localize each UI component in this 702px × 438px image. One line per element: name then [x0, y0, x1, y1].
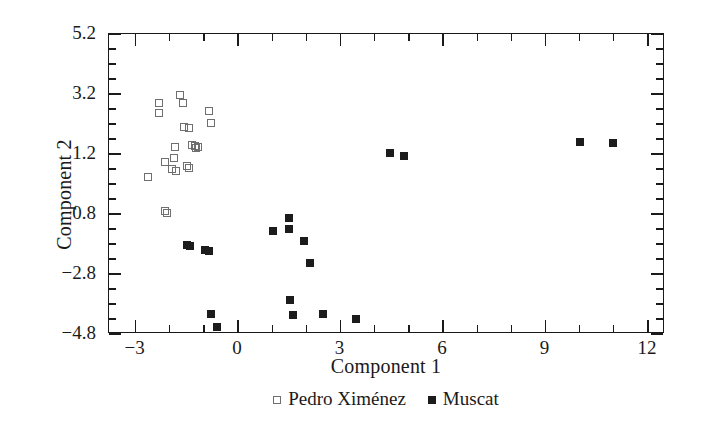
data-point-pedro-ximenez: [155, 109, 163, 117]
y-axis-tick: [656, 108, 663, 109]
data-point-pedro-ximenez: [176, 91, 184, 99]
x-axis-tick: [306, 34, 307, 41]
y-axis-tick: [656, 48, 663, 49]
x-axis-tick: [613, 34, 614, 41]
y-axis-tick: [656, 228, 663, 229]
x-axis-tick: [340, 320, 341, 332]
data-point-pedro-ximenez: [179, 99, 187, 107]
data-point-pedro-ximenez: [172, 167, 180, 175]
data-point-pedro-ximenez: [163, 209, 171, 217]
data-point-muscat: [205, 247, 213, 255]
y-axis-tick: [656, 318, 663, 319]
data-point-muscat: [285, 225, 293, 233]
y-axis-tick: [656, 288, 663, 289]
y-axis-tick: [109, 228, 116, 229]
y-axis-tick: [109, 273, 121, 274]
y-axis-tick: [109, 78, 116, 79]
y-axis-tick: [656, 258, 663, 259]
y-axis-tick: [109, 168, 116, 169]
y-axis-tick: [109, 198, 116, 199]
x-axis-tick: [511, 325, 512, 332]
x-axis-tick: [647, 320, 648, 332]
x-axis-tick: [272, 34, 273, 41]
y-axis-tick: [109, 303, 116, 304]
data-point-muscat: [386, 149, 394, 157]
x-axis-tick: [169, 34, 170, 41]
x-axis-tick: [374, 34, 375, 41]
x-axis-title: Component 1: [108, 355, 664, 378]
y-axis-tick: [109, 183, 116, 184]
legend-item-label: Muscat: [443, 388, 499, 410]
y-axis-tick: [656, 168, 663, 169]
x-axis-tick: [237, 320, 238, 332]
plot-area: [108, 33, 664, 333]
y-axis-tick: [109, 93, 121, 94]
y-axis-tick-label: 1.2: [14, 143, 96, 162]
x-axis-tick: [477, 325, 478, 332]
y-axis-tick: [656, 78, 663, 79]
data-point-muscat: [319, 310, 327, 318]
data-point-pedro-ximenez: [155, 99, 163, 107]
x-axis-tick: [408, 325, 409, 332]
x-axis-tick: [272, 325, 273, 332]
data-point-muscat: [352, 315, 360, 323]
y-axis-tick: [651, 273, 663, 274]
data-point-muscat: [207, 310, 215, 318]
x-axis-tick: [135, 320, 136, 332]
y-axis-tick: [109, 48, 116, 49]
x-axis-tick: [442, 320, 443, 332]
y-axis-tick: [109, 123, 116, 124]
y-axis-tick: [109, 213, 121, 214]
x-axis-tick: [306, 325, 307, 332]
y-axis-tick-label: −0.8: [14, 203, 96, 222]
y-axis-tick: [109, 138, 116, 139]
y-axis-tick: [109, 333, 121, 334]
x-axis-tick: [511, 34, 512, 41]
data-point-muscat: [289, 311, 297, 319]
x-axis-tick: [613, 325, 614, 332]
y-axis-tick-label: 5.2: [14, 23, 96, 42]
x-axis-tick: [545, 320, 546, 332]
y-axis-tick: [651, 213, 663, 214]
data-point-pedro-ximenez: [170, 154, 178, 162]
y-axis-tick: [656, 138, 663, 139]
y-axis-tick: [109, 258, 116, 259]
y-axis-tick: [109, 108, 116, 109]
x-axis-tick: [579, 34, 580, 41]
data-point-pedro-ximenez: [185, 124, 193, 132]
y-axis-tick-label: 3.2: [14, 83, 96, 102]
data-point-pedro-ximenez: [194, 143, 202, 151]
y-axis-tick: [109, 33, 121, 34]
y-axis-tick: [656, 303, 663, 304]
y-axis-tick: [651, 33, 663, 34]
y-axis-tick-label: −4.8: [14, 323, 96, 342]
data-point-muscat: [300, 237, 308, 245]
data-point-pedro-ximenez: [144, 173, 152, 181]
y-axis-tick: [651, 153, 663, 154]
chart-legend: Pedro XiménezMuscat: [108, 388, 664, 410]
y-axis-tick: [651, 93, 663, 94]
y-axis-tick: [109, 288, 116, 289]
data-point-muscat: [576, 138, 584, 146]
data-point-muscat: [213, 323, 221, 331]
data-point-muscat: [400, 152, 408, 160]
y-axis-tick: [109, 318, 116, 319]
open-square-icon: [273, 396, 281, 404]
x-axis-tick: [408, 34, 409, 41]
x-axis-tick: [340, 34, 341, 46]
data-point-pedro-ximenez: [207, 119, 215, 127]
x-axis-tick: [203, 34, 204, 41]
x-axis-tick: [647, 34, 648, 46]
data-point-pedro-ximenez: [205, 107, 213, 115]
y-axis-tick: [656, 243, 663, 244]
data-point-muscat: [269, 227, 277, 235]
y-axis-tick: [656, 198, 663, 199]
y-axis-tick: [651, 333, 663, 334]
data-point-muscat: [609, 139, 617, 147]
y-axis-tick: [109, 63, 116, 64]
x-axis-tick: [374, 325, 375, 332]
x-axis-tick: [169, 325, 170, 332]
legend-item-label: Pedro Ximénez: [288, 388, 406, 410]
data-point-pedro-ximenez: [185, 164, 193, 172]
y-axis-tick: [109, 243, 116, 244]
